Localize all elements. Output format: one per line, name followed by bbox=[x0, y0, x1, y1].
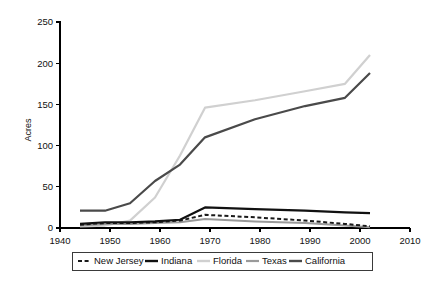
x-tick-label: 2010 bbox=[399, 235, 420, 246]
series-line-california bbox=[80, 73, 370, 211]
y-axis-title: Acres bbox=[23, 118, 33, 142]
y-tick-label: 0 bbox=[48, 222, 53, 233]
y-axis-ticks: 050100150200250 bbox=[37, 16, 60, 233]
series-lines bbox=[80, 55, 370, 227]
x-tick-label: 1940 bbox=[49, 235, 70, 246]
axis-lines bbox=[60, 21, 410, 228]
y-tick-label: 200 bbox=[37, 58, 53, 69]
series-line-florida bbox=[80, 55, 370, 226]
y-tick-label: 100 bbox=[37, 140, 53, 151]
x-tick-label: 1980 bbox=[249, 235, 270, 246]
x-tick-label: 1950 bbox=[99, 235, 120, 246]
chart-canvas: 050100150200250 194019501960197019801990… bbox=[0, 0, 441, 285]
y-tick-label: 250 bbox=[37, 16, 53, 27]
legend-label-texas: Texas bbox=[262, 255, 287, 266]
legend-label-florida: Florida bbox=[213, 255, 243, 266]
x-axis-ticks: 19401950196019701980199020002010 bbox=[49, 228, 420, 246]
line-chart: 050100150200250 194019501960197019801990… bbox=[0, 0, 441, 285]
x-tick-label: 2000 bbox=[349, 235, 370, 246]
legend-label-indiana: Indiana bbox=[161, 255, 193, 266]
axes bbox=[60, 21, 410, 228]
x-tick-label: 1960 bbox=[149, 235, 170, 246]
y-tick-label: 150 bbox=[37, 99, 53, 110]
legend-label-new-jersey: New Jersey bbox=[94, 255, 144, 266]
x-tick-label: 1970 bbox=[199, 235, 220, 246]
x-tick-label: 1990 bbox=[299, 235, 320, 246]
chart-legend: New JerseyIndianaFloridaTexasCalifornia bbox=[72, 252, 372, 270]
legend-label-california: California bbox=[305, 255, 346, 266]
y-tick-label: 50 bbox=[42, 181, 53, 192]
